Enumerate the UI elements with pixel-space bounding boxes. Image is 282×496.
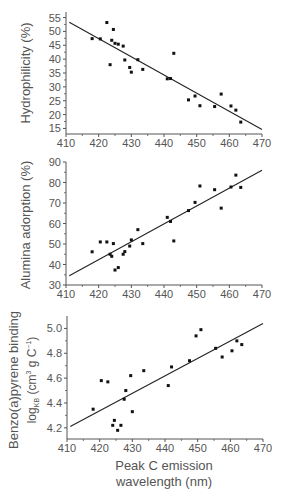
data-point bbox=[136, 228, 139, 231]
x-tick-label: 450 bbox=[188, 442, 206, 454]
y-tick-label: 4.8 bbox=[47, 347, 62, 359]
data-point bbox=[229, 186, 232, 189]
data-point bbox=[99, 37, 102, 40]
data-point bbox=[239, 186, 242, 189]
regression-line bbox=[69, 22, 262, 129]
y-tick-label: 50 bbox=[49, 25, 61, 37]
x-tick-label: 470 bbox=[253, 137, 271, 149]
data-point bbox=[106, 380, 109, 383]
data-point bbox=[170, 365, 173, 368]
y-axis-label: Alumina adorption (%) bbox=[18, 161, 33, 290]
x-tick-label: 420 bbox=[90, 442, 108, 454]
x-tick-label: 420 bbox=[89, 288, 107, 300]
data-point bbox=[110, 39, 113, 42]
x-tick-label: 450 bbox=[187, 288, 205, 300]
data-point bbox=[234, 174, 237, 177]
data-point bbox=[220, 93, 223, 96]
data-point bbox=[141, 68, 144, 71]
y-tick-label: 40 bbox=[49, 53, 61, 65]
x-axis-label-line2: wavelength (nm) bbox=[115, 474, 212, 489]
data-point bbox=[91, 250, 94, 253]
data-point bbox=[111, 424, 114, 427]
data-point bbox=[116, 429, 119, 432]
hydrophilicity-panel: 152025303540455055410420430440450460470H… bbox=[18, 12, 271, 149]
data-point bbox=[172, 52, 175, 55]
data-point bbox=[119, 424, 122, 427]
y-tick-label: 30 bbox=[49, 81, 61, 93]
data-point bbox=[128, 66, 131, 69]
data-point bbox=[131, 410, 134, 413]
data-point bbox=[99, 240, 102, 243]
data-point bbox=[114, 42, 117, 45]
data-point bbox=[123, 250, 126, 253]
x-tick-label: 430 bbox=[122, 288, 140, 300]
y-tick-label: 90 bbox=[49, 156, 61, 168]
data-point bbox=[199, 328, 202, 331]
y-tick-label: 4.6 bbox=[47, 372, 62, 384]
data-point bbox=[169, 220, 172, 223]
x-tick-label: 410 bbox=[58, 442, 76, 454]
regression-line bbox=[69, 170, 262, 276]
y-tick-label: 25 bbox=[49, 95, 61, 107]
y-tick-label: 55 bbox=[49, 12, 61, 24]
data-point bbox=[122, 253, 125, 256]
data-point bbox=[123, 398, 126, 401]
data-point bbox=[113, 419, 116, 422]
y-tick-label: 35 bbox=[49, 67, 61, 79]
data-point bbox=[240, 343, 243, 346]
data-point bbox=[167, 384, 170, 387]
data-point bbox=[122, 45, 125, 48]
y-tick-label: 45 bbox=[49, 39, 61, 51]
y-axis-label: Hydrophilicity (%) bbox=[18, 22, 33, 123]
y-tick-label: 80 bbox=[49, 177, 61, 189]
data-point bbox=[195, 334, 198, 337]
x-tick-label: 420 bbox=[89, 137, 107, 149]
data-point bbox=[117, 43, 120, 46]
data-point bbox=[234, 109, 237, 112]
data-point bbox=[187, 98, 190, 101]
data-point bbox=[172, 239, 175, 242]
data-point bbox=[166, 216, 169, 219]
scatter-plots-svg: 152025303540455055410420430440450460470H… bbox=[0, 0, 282, 496]
data-point bbox=[105, 240, 108, 243]
data-point bbox=[92, 408, 95, 411]
y-tick-label: 40 bbox=[49, 259, 61, 271]
x-tick-label: 470 bbox=[253, 288, 271, 300]
data-point bbox=[91, 37, 94, 40]
data-point bbox=[117, 266, 120, 269]
data-point bbox=[123, 58, 126, 61]
data-point bbox=[112, 242, 115, 245]
data-point bbox=[235, 339, 238, 342]
data-point bbox=[142, 369, 145, 372]
y-tick-label: 20 bbox=[49, 109, 61, 121]
y-tick-label: 4.2 bbox=[47, 422, 62, 434]
alumina-adsorption-panel: 30405060708090410420430440450460470Alumi… bbox=[18, 156, 271, 300]
data-point bbox=[188, 359, 191, 362]
data-point bbox=[141, 242, 144, 245]
data-point bbox=[124, 389, 127, 392]
data-point bbox=[129, 374, 132, 377]
data-point bbox=[136, 58, 139, 61]
data-point bbox=[110, 255, 113, 258]
x-tick-label: 460 bbox=[220, 288, 238, 300]
y-tick-label: 60 bbox=[49, 218, 61, 230]
data-point bbox=[221, 356, 224, 359]
data-point bbox=[198, 184, 201, 187]
y-tick-label: 70 bbox=[49, 197, 61, 209]
regression-line bbox=[70, 323, 263, 426]
y-axis-label-line1: Benzo(a)pyrene binding bbox=[6, 311, 21, 449]
data-point bbox=[213, 188, 216, 191]
x-tick-label: 430 bbox=[122, 137, 140, 149]
data-point bbox=[213, 105, 216, 108]
data-point bbox=[128, 245, 131, 248]
data-point bbox=[114, 269, 117, 272]
x-tick-label: 430 bbox=[123, 442, 141, 454]
x-tick-label: 460 bbox=[220, 137, 238, 149]
data-point bbox=[166, 77, 169, 80]
x-tick-label: 460 bbox=[221, 442, 239, 454]
figure-stack: 152025303540455055410420430440450460470H… bbox=[0, 0, 282, 496]
data-point bbox=[187, 209, 190, 212]
data-point bbox=[105, 21, 108, 24]
x-tick-label: 440 bbox=[155, 288, 173, 300]
data-point bbox=[194, 95, 197, 98]
